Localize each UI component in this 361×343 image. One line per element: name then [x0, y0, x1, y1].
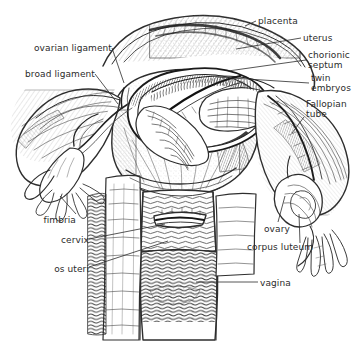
label-fallopian-tube: Fallopian tube: [306, 99, 347, 119]
label-corpus-luteum: corpus luteum: [247, 242, 313, 252]
label-twin-embryos: twin embryos: [311, 73, 351, 93]
label-vagina: vagina: [260, 278, 291, 288]
anatomy-figure: placenta uterus chorionic septum twin em…: [0, 0, 361, 343]
label-ovary: ovary: [264, 224, 290, 234]
leader-chorionic-septum: [228, 60, 306, 71]
label-os-uteri: os uteri: [41, 264, 89, 274]
label-broad-ligament: broad ligament: [8, 69, 95, 79]
vagina-body: [138, 250, 222, 343]
label-cervix: cervix: [49, 235, 89, 245]
leader-fimbria: [60, 196, 76, 214]
label-uterus: uterus: [303, 33, 332, 43]
label-fimbria: fimbria: [28, 215, 76, 225]
label-placenta: placenta: [258, 16, 298, 26]
label-ovarian-ligament: ovarian ligament: [18, 43, 112, 53]
label-chorionic-septum: chorionic septum: [308, 50, 350, 70]
